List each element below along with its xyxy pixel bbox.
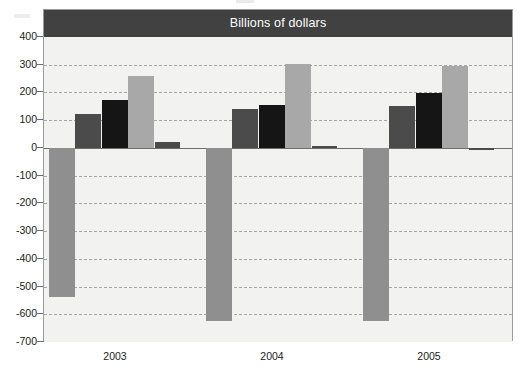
y-axis-tick-label: 400 (0, 30, 37, 42)
bar-2005-series-5 (469, 148, 495, 150)
bar-2003-series-3 (102, 100, 128, 148)
scan-artifact (14, 14, 30, 18)
zero-line (44, 148, 512, 149)
x-axis-tick-label-2004: 2004 (260, 350, 283, 362)
chart-title: Billions of dollars (44, 10, 512, 37)
bar-2003-series-2 (75, 114, 101, 148)
bar-2004-series-1 (206, 148, 232, 321)
bar-2003-series-1 (49, 148, 75, 297)
x-axis-tick-label-2003: 2003 (103, 350, 126, 362)
y-axis-tick-label: -300 (0, 224, 37, 236)
bar-2004-series-5 (312, 146, 338, 148)
gridline (44, 203, 512, 204)
gridline (44, 231, 512, 232)
bar-2004-series-3 (259, 105, 285, 147)
gridline (44, 176, 512, 177)
y-axis-tick-label: 100 (0, 113, 37, 125)
gridline (44, 259, 512, 260)
y-axis-tick-label: -400 (0, 252, 37, 264)
y-axis-tick-mark (37, 341, 44, 342)
bar-2004-series-4 (285, 64, 311, 148)
scan-artifact (236, 0, 254, 3)
y-axis-tick-label: -700 (0, 335, 37, 347)
gridline (44, 314, 512, 315)
bar-2005-series-3 (416, 93, 442, 148)
gridline (44, 287, 512, 288)
bar-2005-series-1 (363, 148, 389, 321)
bar-2004-series-2 (232, 109, 258, 148)
plot-area (44, 37, 512, 342)
bar-2005-series-4 (442, 66, 468, 148)
bar-2003-series-5 (155, 142, 181, 148)
y-axis-tick-label: -100 (0, 169, 37, 181)
x-axis-tick-label-2005: 2005 (417, 350, 440, 362)
y-axis-tick-label: 300 (0, 58, 37, 70)
y-axis-tick-label: 200 (0, 85, 37, 97)
chart-figure: 4003002001000-100-200-300-400-500-600-70… (0, 0, 526, 381)
y-axis-tick-label: -200 (0, 196, 37, 208)
y-axis-tick-label: -600 (0, 307, 37, 319)
bar-2005-series-2 (389, 106, 415, 148)
plot-frame: Billions of dollars (43, 9, 513, 341)
y-axis-tick-label: -500 (0, 280, 37, 292)
y-axis-tick-label: 0 (0, 141, 37, 153)
bar-2003-series-4 (128, 76, 154, 148)
